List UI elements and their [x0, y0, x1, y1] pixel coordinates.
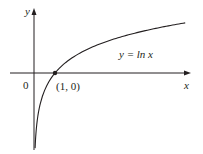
x-axis-label: x [183, 79, 189, 91]
origin-label: 0 [23, 79, 29, 91]
ln-graph: y x 0 (1, 0) y = ln x [0, 0, 203, 154]
y-axis-label: y [24, 5, 30, 17]
y-axis-arrow-icon [32, 8, 37, 15]
x-axis-arrow-icon [184, 71, 191, 76]
point-1-0 [53, 71, 57, 75]
point-label: (1, 0) [56, 80, 80, 93]
curve-label: y = ln x [118, 48, 153, 60]
